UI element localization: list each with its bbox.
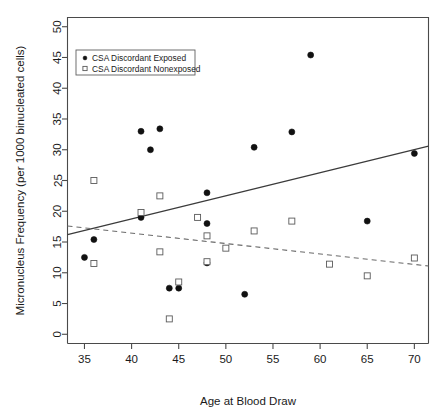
legend-label: CSA Discordant Nonexposed [92,64,201,74]
data-point-open [91,261,97,267]
trendline-solid [68,146,429,235]
y-tick-label: 5 [52,300,64,306]
data-point-open [176,279,182,285]
x-tick-label: 60 [314,353,327,365]
chart-canvas: 051015202530354045503540455055606570Age … [0,0,445,420]
data-point-filled [289,129,295,135]
y-tick-label: 15 [52,236,64,249]
data-point-filled [251,144,257,150]
data-point-filled [204,190,210,196]
x-tick-label: 50 [219,353,232,365]
data-point-open [195,214,201,220]
legend-label: CSA Discordant Exposed [92,53,186,63]
trendline-dashed [68,226,429,266]
x-axis-title: Age at Blood Draw [200,395,297,407]
data-point-filled [242,291,248,297]
y-tick-label: 50 [52,20,64,33]
data-point-open [251,228,257,234]
y-tick-label: 40 [52,82,64,95]
y-tick-label: 20 [52,205,64,218]
data-point-open [138,209,144,215]
data-point-open [157,249,163,255]
y-tick-label: 0 [52,331,64,337]
data-point-filled [166,285,172,291]
data-point-filled [91,237,97,243]
data-point-open [204,233,210,239]
y-tick-label: 25 [52,174,64,187]
y-axis-title: Micronucleus Frequency (per 1000 binucle… [14,45,26,315]
y-tick-label: 30 [52,143,64,156]
data-point-filled [176,285,182,291]
series-0 [81,52,417,297]
data-point-filled [81,254,87,260]
x-tick-label: 70 [408,353,421,365]
x-tick-label: 45 [172,353,185,365]
x-tick-label: 35 [78,353,91,365]
data-point-open [166,316,172,322]
data-point-open [223,245,229,251]
data-point-filled [308,52,314,58]
legend-marker-filled-circle [83,56,87,60]
data-point-open [411,255,417,261]
x-tick-label: 40 [125,353,138,365]
y-tick-label: 35 [52,113,64,126]
y-tick-label: 45 [52,51,64,64]
y-axis: 05101520253035404550 [52,20,68,337]
data-point-filled [157,126,163,132]
data-point-filled [204,221,210,227]
scatter-plot-figure: 051015202530354045503540455055606570Age … [0,0,445,420]
y-tick-label: 10 [52,266,64,279]
data-point-open [327,261,333,267]
legend-marker-open-square [83,66,87,70]
data-point-open [364,273,370,279]
data-point-open [91,178,97,184]
legend: CSA Discordant ExposedCSA Discordant Non… [76,50,201,75]
data-point-filled [364,218,370,224]
data-point-open [289,218,295,224]
data-point-filled [138,128,144,134]
series-1 [91,178,417,322]
x-tick-label: 55 [267,353,280,365]
x-tick-label: 65 [361,353,374,365]
data-point-open [204,259,210,265]
data-point-filled [147,147,153,153]
x-axis: 3540455055606570 [78,344,421,365]
data-point-open [157,193,163,199]
data-point-filled [411,150,417,156]
